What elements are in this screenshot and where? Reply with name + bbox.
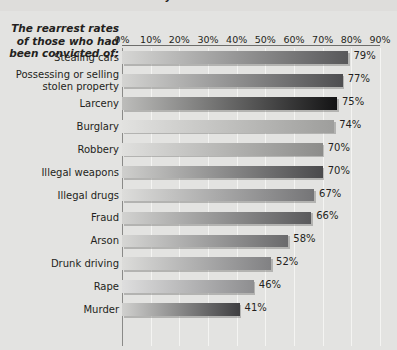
bar <box>122 212 311 225</box>
bar <box>122 97 337 110</box>
x-axis-tick-0: 0% <box>114 34 129 45</box>
x-axis-tick-50: 50% <box>255 34 276 45</box>
category-label: Robbery <box>1 144 119 155</box>
x-axis-tick-60: 60% <box>283 34 304 45</box>
bar <box>122 303 240 316</box>
bar <box>122 120 334 133</box>
bar <box>122 74 343 87</box>
bar-value-label: 66% <box>316 210 338 221</box>
bar <box>122 51 348 64</box>
bar-value-label: 74% <box>339 119 361 130</box>
category-label: Burglary <box>1 121 119 132</box>
bar-value-label: 58% <box>293 233 315 244</box>
bar-row: 79% <box>122 48 380 71</box>
bar <box>122 280 254 293</box>
bar-row: 75% <box>122 94 380 117</box>
category-label-column: Stealing carsPossessing or sellingstolen… <box>0 48 119 346</box>
bar-row: 66% <box>122 208 380 231</box>
clipped-caption-strip: rearrested within three years? <box>0 0 397 11</box>
bar <box>122 189 314 202</box>
category-label: Arson <box>1 235 119 246</box>
row-header-line-1: The rearrest rates <box>4 22 119 35</box>
x-axis-tick-20: 20% <box>169 34 190 45</box>
bar-row: 58% <box>122 231 380 254</box>
bar-row: 52% <box>122 254 380 277</box>
bar-row: 74% <box>122 117 380 140</box>
x-axis-tick-10: 10% <box>140 34 161 45</box>
x-axis-tick-30: 30% <box>197 34 218 45</box>
bar-value-label: 75% <box>342 96 364 107</box>
category-label: Illegal drugs <box>1 190 119 201</box>
x-axis-tick-80: 80% <box>341 34 362 45</box>
plot-area: 79%77%75%74%70%70%67%66%58%52%46%41% <box>122 48 380 346</box>
category-label: Possessing or sellingstolen property <box>1 69 119 92</box>
bar-value-label: 67% <box>319 188 341 199</box>
bar-value-label: 77% <box>348 73 370 84</box>
bar-row: 41% <box>122 300 380 323</box>
bar-value-label: 70% <box>328 142 350 153</box>
bar <box>122 257 271 270</box>
bar-value-label: 79% <box>353 50 375 61</box>
bar-row: 70% <box>122 163 380 186</box>
bar-row: 67% <box>122 185 380 208</box>
category-label-line: stolen property <box>1 81 119 92</box>
category-label: Stealing cars <box>1 52 119 63</box>
x-axis-tick-90: 90% <box>369 34 390 45</box>
bar-value-label: 70% <box>328 165 350 176</box>
gridline-90 <box>380 48 381 346</box>
bar-value-label: 52% <box>276 256 298 267</box>
category-label: Fraud <box>1 212 119 223</box>
bar-row: 70% <box>122 140 380 163</box>
bar-row: 77% <box>122 71 380 94</box>
bar <box>122 166 323 179</box>
category-label: Illegal weapons <box>1 167 119 178</box>
plot-top-rule <box>122 45 380 46</box>
category-label: Drunk driving <box>1 258 119 269</box>
x-axis-tick-70: 70% <box>312 34 333 45</box>
clipped-caption-text: rearrested within three years? <box>22 0 203 2</box>
chart-root: rearrested within three years? The rearr… <box>0 0 397 350</box>
category-label: Murder <box>1 304 119 315</box>
bar <box>122 235 288 248</box>
bar <box>122 143 323 156</box>
category-label: Rape <box>1 281 119 292</box>
bar-row: 46% <box>122 277 380 300</box>
category-label: Larceny <box>1 98 119 109</box>
x-axis-tick-40: 40% <box>226 34 247 45</box>
bar-value-label: 46% <box>259 279 281 290</box>
category-label-line: Possessing or selling <box>1 69 119 80</box>
bar-value-label: 41% <box>245 302 267 313</box>
